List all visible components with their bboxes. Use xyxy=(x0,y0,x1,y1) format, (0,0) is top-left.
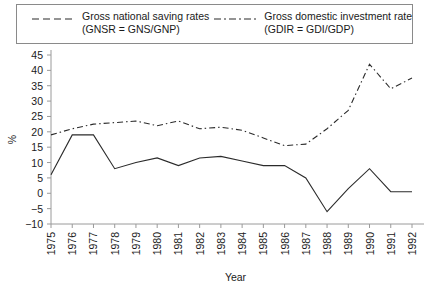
legend-label-gdir-line2: (GDIR = GDI/GDP) xyxy=(264,23,412,36)
y-tick-label: −5 xyxy=(31,203,43,215)
y-tick-label: 35 xyxy=(31,80,43,92)
chart-canvas: 454035302520151050−5−10 1975197619771978… xyxy=(0,44,429,285)
x-tick-label: 1975 xyxy=(45,232,57,256)
y-tick-label: −10 xyxy=(25,218,43,230)
x-tick-label: 1976 xyxy=(66,232,78,256)
x-axis-label: Year xyxy=(225,271,247,283)
legend-swatch-gdir xyxy=(213,13,257,25)
legend-label-gnsr-line1: Gross national saving rates xyxy=(82,10,209,23)
legend-label-gdir-line1: Gross domestic investment rate xyxy=(264,10,412,23)
y-tick-label: 40 xyxy=(31,64,43,76)
x-tick-label: 1986 xyxy=(279,232,291,256)
x-tick-label: 1987 xyxy=(300,232,312,256)
legend-swatch-gnsr xyxy=(31,13,75,25)
series-line-gdir xyxy=(51,64,412,145)
x-tick-label: 1980 xyxy=(151,232,163,256)
x-tick-label: 1983 xyxy=(215,232,227,256)
plot-area: 454035302520151050−5−10 1975197619771978… xyxy=(0,44,429,285)
y-tick-label: 25 xyxy=(31,110,43,122)
legend-label-gnsr: Gross national saving rates (GNSR = GNS/… xyxy=(82,10,209,36)
y-tick-label: 5 xyxy=(37,172,43,184)
x-tick-label: 1977 xyxy=(87,232,99,256)
y-tick-label: 45 xyxy=(31,49,43,61)
x-tick-label: 1978 xyxy=(109,232,121,256)
y-tick-label: 0 xyxy=(37,187,43,199)
y-axis-ticks: 454035302520151050−5−10 xyxy=(25,49,51,230)
x-tick-label: 1989 xyxy=(342,232,354,256)
x-tick-label: 1991 xyxy=(385,232,397,256)
x-tick-label: 1988 xyxy=(321,232,333,256)
legend-entry-gnsr: Gross national saving rates (GNSR = GNS/… xyxy=(31,5,209,36)
chart-legend: Gross national saving rates (GNSR = GNS/… xyxy=(16,4,413,44)
y-tick-label: 20 xyxy=(31,126,43,138)
x-tick-label: 1981 xyxy=(172,232,184,256)
x-tick-label: 1982 xyxy=(194,232,206,256)
series-line-gnsr xyxy=(51,135,412,212)
chart-figure: Gross national saving rates (GNSR = GNS/… xyxy=(0,0,429,285)
x-tick-label: 1992 xyxy=(406,232,418,256)
y-tick-label: 10 xyxy=(31,157,43,169)
x-tick-label: 1990 xyxy=(364,232,376,256)
y-tick-label: 30 xyxy=(31,95,43,107)
legend-label-gnsr-line2: (GNSR = GNS/GNP) xyxy=(82,23,209,36)
x-tick-label: 1985 xyxy=(257,232,269,256)
y-tick-label: 15 xyxy=(31,141,43,153)
x-tick-label: 1984 xyxy=(236,232,248,256)
x-tick-label: 1979 xyxy=(130,232,142,256)
legend-entry-gdir: Gross domestic investment rate (GDIR = G… xyxy=(213,5,412,36)
x-axis-ticks: 1975197619771978197919801981198219831984… xyxy=(45,224,418,255)
y-axis-label: % xyxy=(6,135,18,144)
legend-label-gdir: Gross domestic investment rate (GDIR = G… xyxy=(264,10,412,36)
